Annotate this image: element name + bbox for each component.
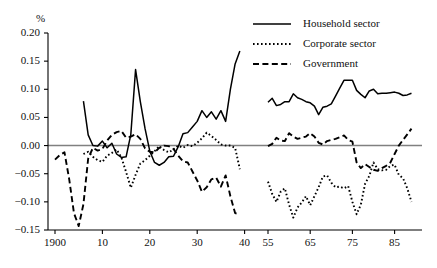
legend-label-0: Household sector — [303, 18, 380, 29]
y-axis-tick-label: −0.15 — [6, 224, 40, 235]
y-axis-tick-label: 0.20 — [6, 27, 40, 38]
x-axis-tick-label: 10 — [87, 237, 117, 248]
x-axis-tick-label: 75 — [337, 237, 367, 248]
y-axis-tick-label: 0.00 — [6, 140, 40, 151]
legend-label-2: Government — [303, 58, 358, 69]
x-axis-tick-label: 30 — [182, 237, 212, 248]
x-axis-tick-label: 20 — [135, 237, 165, 248]
x-axis-tick-label: 85 — [380, 237, 410, 248]
y-axis-tick-label: −0.05 — [6, 168, 40, 179]
x-axis-tick-label: 65 — [295, 237, 325, 248]
y-axis-tick-label: −0.10 — [6, 196, 40, 207]
x-axis-tick-label: 55 — [253, 237, 283, 248]
y-axis-tick-label: 0.10 — [6, 83, 40, 94]
series-line-0 — [83, 51, 239, 165]
x-axis-tick-label: 1900 — [40, 237, 70, 248]
series-line-3 — [268, 162, 411, 217]
y-axis-unit-label: % — [36, 12, 45, 24]
y-axis-tick-label: 0.15 — [6, 55, 40, 66]
series-line-5 — [268, 129, 411, 171]
chart-figure: % 0.200.150.100.050.00−0.05−0.10−0.15 19… — [0, 0, 437, 268]
y-axis-tick-label: 0.05 — [6, 111, 40, 122]
legend-label-1: Corporate sector — [303, 38, 376, 49]
